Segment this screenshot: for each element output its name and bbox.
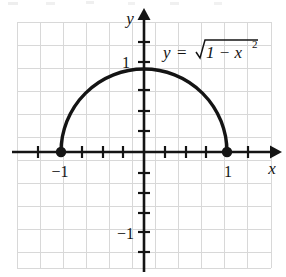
equation-radicand: 1 − x: [206, 43, 242, 62]
x-axis-label: x: [267, 159, 276, 178]
equation-lhs: y: [161, 43, 171, 62]
y-axis-label: y: [124, 9, 134, 28]
ytick-label-one: 1: [122, 54, 130, 71]
left-endpoint-dot: [56, 147, 66, 157]
right-endpoint-dot: [222, 147, 232, 157]
graph-figure: x y −1 1 1 −1 y = 1 − x 2: [0, 0, 286, 277]
xtick-label-negative-one: −1: [51, 163, 68, 180]
equation-equals: =: [177, 43, 187, 62]
xtick-label-one: 1: [224, 163, 232, 180]
ytick-label-negative-one: −1: [117, 225, 134, 242]
equation-exponent: 2: [252, 38, 258, 50]
